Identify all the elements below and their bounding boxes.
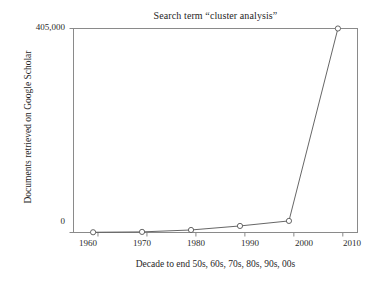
x-axis-ticks [98, 233, 343, 237]
data-point-1959 [90, 230, 95, 235]
data-series-markers [90, 26, 340, 235]
data-point-1999 [286, 218, 291, 223]
plot-area [0, 0, 377, 283]
data-point-2009 [335, 26, 340, 31]
data-point-1979 [188, 227, 193, 232]
data-point-1989 [237, 223, 242, 228]
y-axis-ticks [70, 29, 74, 233]
chart-figure: Search term “cluster analysis” Documents… [0, 0, 377, 283]
plot-frame [74, 29, 358, 233]
data-point-1969 [139, 229, 144, 234]
data-series-line [93, 29, 338, 233]
